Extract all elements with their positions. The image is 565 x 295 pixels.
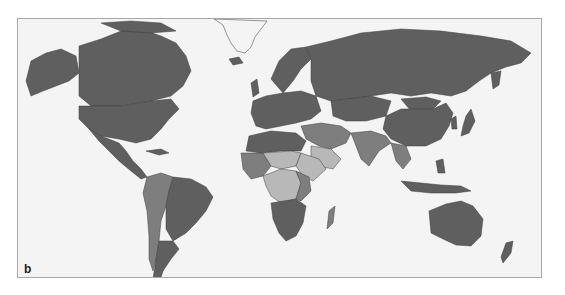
japan — [461, 109, 475, 136]
new-zealand — [501, 241, 513, 263]
china — [383, 103, 453, 146]
greenland — [214, 19, 267, 53]
madagascar — [327, 206, 335, 229]
southern-africa — [271, 199, 306, 241]
scandinavia — [271, 47, 311, 93]
south-asia — [351, 131, 391, 166]
brazil — [166, 177, 213, 241]
indonesia — [401, 181, 471, 193]
kamchatka — [491, 71, 501, 89]
russia — [306, 29, 531, 101]
philippines — [436, 159, 445, 173]
central-africa — [263, 169, 301, 203]
caribbean — [146, 149, 169, 155]
korea — [451, 116, 457, 129]
canada — [79, 29, 191, 106]
central-asia — [331, 96, 391, 121]
iceland — [229, 57, 243, 65]
uk — [251, 79, 259, 97]
europe — [251, 91, 321, 129]
australia — [429, 201, 483, 246]
alaska — [26, 49, 79, 96]
world-map — [17, 18, 542, 278]
panel-label: b — [24, 262, 31, 276]
arctic-islands — [101, 21, 176, 33]
southeast-asia — [391, 143, 411, 169]
middle-east — [301, 123, 351, 149]
north-africa — [246, 131, 306, 153]
map-frame — [17, 18, 542, 278]
